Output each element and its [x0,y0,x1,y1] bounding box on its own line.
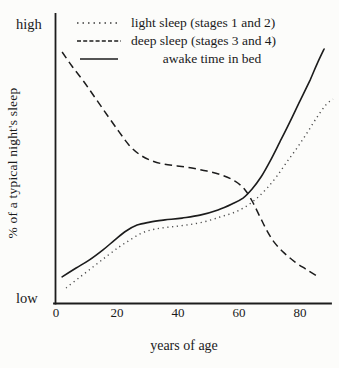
dotted-line-swatch-icon [76,20,122,26]
solid-line-swatch-icon [76,56,122,62]
x-tick-label-40: 40 [172,306,185,319]
y-axis-low-label: low [16,291,38,306]
y-axis-high-label: high [16,17,42,32]
x-axis-title: years of age [150,338,218,354]
x-tick-label-0: 0 [53,306,60,319]
legend-row-light-sleep: light sleep (stages 1 and 2) [76,14,293,32]
y-axis-title: % of a typical night's sleep [5,88,21,239]
awake-time-curve [62,49,324,277]
legend: light sleep (stages 1 and 2) deep sleep … [76,14,293,68]
legend-row-awake-time: awake time in bed [76,50,293,68]
legend-label-awake-time: awake time in bed [131,51,293,67]
curves-group [62,49,333,288]
x-tick-label-80: 80 [294,306,307,319]
legend-label-deep-sleep: deep sleep (stages 3 and 4) [131,33,293,49]
sleep-stages-by-age-chart: high low % of a typical night's sleep ye… [0,0,339,368]
legend-row-deep-sleep: deep sleep (stages 3 and 4) [76,32,293,50]
legend-label-light-sleep: light sleep (stages 1 and 2) [131,15,293,31]
x-tick-label-60: 60 [233,306,246,319]
x-tick-label-20: 20 [111,306,124,319]
dashed-line-swatch-icon [76,38,122,44]
deep-sleep-curve [62,52,317,276]
